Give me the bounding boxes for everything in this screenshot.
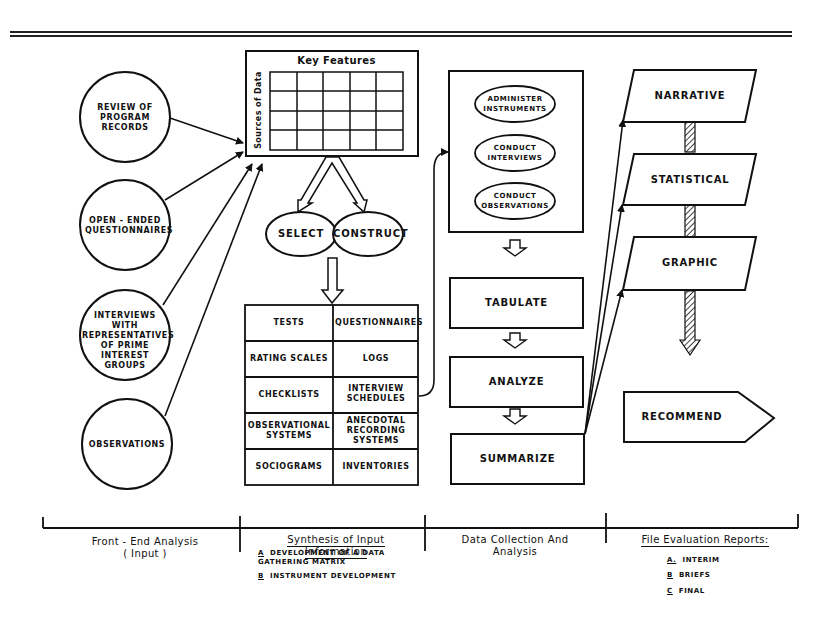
activity-interviews: CONDUCT INTERVIEWS [482,143,548,163]
phase-3-title: Data Collection And [430,534,600,546]
activity-administer: ADMINISTER INSTRUMENTS [482,94,548,114]
instrument-interview-schedules: INTERVIEW SCHEDULES [340,384,412,404]
matrix-side-label: Sources of Data [253,70,265,150]
phase-2-item-b: BINSTRUMENT DEVELOPMENT [258,572,418,581]
phase-4-item-b: BBRIEFS [667,571,767,580]
step-analyze: ANALYZE [450,377,583,387]
phase-4-item-b-key: B [667,571,673,579]
phase-2-item-b-text: INSTRUMENT DEVELOPMENT [270,572,396,580]
report-label-narrative: NARRATIVE [630,91,750,101]
phase-4-item-c-text: FINAL [679,587,705,595]
phase-1-subtitle: ( Input ) [60,548,230,560]
instrument-logs: LOGS [335,354,417,364]
report-arrows [585,120,623,434]
phase-4-item-a-key: A. [667,556,676,564]
activity-observations: CONDUCT OBSERVATIONS [478,191,552,211]
phase-4-item-c-key: C [667,587,673,595]
source-label-records: REVIEW OF PROGRAM RECORDS [85,103,165,133]
phase-4-item-a-text: INTERIM [682,556,719,564]
phase-3-subtitle: Analysis [430,546,600,558]
instrument-inventories: INVENTORIES [335,462,417,472]
recommend-label: RECOMMEND [626,412,738,422]
down-arrow-1 [504,240,526,256]
phase-2-item-a-text: DEVELOPMENT OF A DATA GATHERING MATRIX [258,549,385,566]
step-summarize: SUMMARIZE [451,454,584,464]
phase-1-title: Front - End Analysis [60,536,230,548]
construct-label: CONSTRUCT [333,229,403,239]
instrument-tests: TESTS [247,318,331,328]
phase-4-item-c: CFINAL [667,587,767,596]
report-label-statistical: STATISTICAL [630,175,750,185]
instrument-checklists: CHECKLISTS [247,390,331,400]
instrument-observational-systems: OBSERVATIONAL SYSTEMS [247,421,331,441]
phase-4-title-text: File Evaluation Reports: [641,534,768,547]
matrix-title: Key Features [270,55,403,67]
instrument-rating-scales: RATING SCALES [247,354,331,364]
down-arrow-2 [504,333,526,348]
report-label-graphic: GRAPHIC [630,258,750,268]
source-label-interviews: INTERVIEWS WITH REPRESENTATIVES OF PRIME… [82,311,168,371]
select-label: SELECT [266,229,336,239]
phase-2-item-a-key: A [258,549,264,557]
phase-4-item-b-text: BRIEFS [679,571,711,579]
down-arrow-3 [504,409,526,424]
phase-4-item-a: A.INTERIM [667,556,767,565]
top-rule [10,32,792,36]
step-tabulate: TABULATE [450,298,583,308]
instrument-questionnaires: QUESTIONNAIRES [335,318,417,328]
connector-table-to-collection [419,152,448,396]
split-arrow [298,157,367,212]
down-arrow-instruments [322,258,343,303]
source-label-questionnaires: OPEN - ENDED QUESTIONNAIRES [85,216,165,236]
phase-2-item-b-key: B [258,572,264,580]
phase-4-title: File Evaluation Reports: [630,534,780,546]
source-label-observations: OBSERVATIONS [82,440,172,450]
phase-2-item-a: ADEVELOPMENT OF A DATA GATHERING MATRIX [258,549,418,567]
instrument-anecdotal-systems: ANECDOTAL RECORDING SYSTEMS [340,416,412,446]
instrument-sociograms: SOCIOGRAMS [247,462,331,472]
